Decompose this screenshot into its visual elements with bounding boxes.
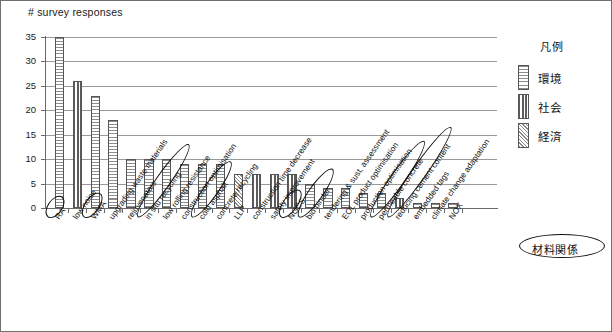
legend-item-economy: 経済 — [518, 121, 604, 150]
x-axis-tick — [140, 209, 141, 213]
x-axis-tick — [86, 209, 87, 213]
x-axis-tick — [301, 209, 302, 213]
bar — [55, 37, 64, 208]
y-axis-tick-label: 5 — [16, 178, 36, 189]
x-axis-tick — [176, 209, 177, 213]
y-axis-tick — [41, 135, 46, 136]
legend-label-economy: 経済 — [538, 128, 562, 144]
x-axis-tick — [426, 209, 427, 213]
x-axis-tick — [68, 209, 69, 213]
x-axis-tick — [265, 209, 266, 213]
x-axis-tick — [373, 209, 374, 213]
x-axis-tick — [194, 209, 195, 213]
annotation-label: 材料関係 — [526, 238, 584, 260]
x-axis-tick — [283, 209, 284, 213]
legend-swatch-society-icon — [518, 94, 529, 119]
y-axis-tick-label: 30 — [16, 55, 36, 66]
x-axis-tick — [444, 209, 445, 213]
y-axis-labels: 05101520253035 — [14, 0, 36, 332]
legend-swatch-economy-icon — [518, 123, 529, 148]
y-axis-tick — [41, 159, 46, 160]
legend-label-environment: 環境 — [538, 70, 562, 86]
x-axis-tick — [229, 209, 230, 213]
bar — [108, 120, 117, 208]
x-axis-tick — [104, 209, 105, 213]
x-axis-tick — [391, 209, 392, 213]
x-axis-tick — [462, 209, 463, 213]
x-axis-tick — [319, 209, 320, 213]
y-axis-tick-label: 20 — [16, 104, 36, 115]
x-axis-tick — [158, 209, 159, 213]
legend-label-society: 社会 — [538, 99, 562, 115]
x-axis-tick — [337, 209, 338, 213]
bar-series — [46, 37, 497, 208]
y-axis-tick — [41, 110, 46, 111]
legend-item-environment: 環境 — [518, 63, 604, 92]
x-axis-tick — [122, 209, 123, 213]
y-axis-tick-label: 0 — [16, 202, 36, 213]
legend-item-society: 社会 — [518, 92, 604, 121]
chart-title: # survey responses — [28, 6, 123, 18]
bar — [73, 81, 82, 208]
legend-swatch-environment-icon — [518, 65, 529, 90]
x-axis-tick — [212, 209, 213, 213]
y-axis-tick-label: 35 — [16, 31, 36, 42]
legend-title: 凡例 — [540, 38, 604, 54]
y-axis-tick — [41, 208, 46, 209]
x-axis-tick — [408, 209, 409, 213]
y-axis-tick-label: 25 — [16, 80, 36, 91]
legend: 凡例 環境 社会 経済 — [518, 38, 604, 150]
y-axis-tick — [41, 61, 46, 62]
y-axis-tick-label: 15 — [16, 129, 36, 140]
x-axis-tick — [355, 209, 356, 213]
y-axis-tick — [41, 37, 46, 38]
y-axis-tick — [41, 86, 46, 87]
x-axis-tick — [247, 209, 248, 213]
y-axis-tick — [41, 184, 46, 185]
y-axis-tick-label: 10 — [16, 153, 36, 164]
